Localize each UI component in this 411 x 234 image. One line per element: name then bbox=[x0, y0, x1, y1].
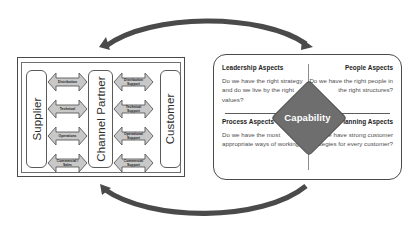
party-channel-partner: Channel Partner bbox=[88, 70, 113, 168]
flow-arrow-commercial-support: Commercial Support bbox=[113, 151, 154, 175]
supplier-to-partner-flows: Distribution Technical Operations Commer… bbox=[47, 68, 88, 170]
flow-arrow-commercial-sales-label: Commercial / Sales bbox=[52, 159, 83, 167]
flow-arrow-distribution-label: Distribution bbox=[52, 80, 83, 84]
top-arc bbox=[99, 21, 313, 50]
party-channel-partner-label: Channel Partner bbox=[95, 76, 107, 161]
flow-arrow-technical-support-label: Technical Support bbox=[118, 105, 149, 113]
bottom-arc bbox=[100, 184, 306, 213]
flow-arrow-operational-support-label: Operational Support bbox=[118, 132, 149, 140]
party-customer: Customer bbox=[160, 70, 181, 168]
flow-arrow-technical-label: Technical bbox=[52, 107, 83, 111]
flow-arrow-distribution-support: Distribution Support bbox=[113, 70, 154, 94]
flow-arrow-distribution-support-label: Distribution Support bbox=[118, 78, 149, 86]
flow-arrow-operations-label: Operations bbox=[52, 134, 83, 138]
horizontal-divider-right bbox=[338, 113, 390, 114]
flow-arrow-technical: Technical bbox=[47, 97, 88, 121]
party-supplier: Supplier bbox=[26, 70, 47, 168]
capability-panel: Leadership Aspects Do we have the right … bbox=[213, 54, 402, 180]
flow-arrow-distribution: Distribution bbox=[47, 70, 88, 94]
party-supplier-label: Supplier bbox=[31, 98, 43, 141]
flow-arrow-operations: Operations bbox=[47, 124, 88, 148]
partner-to-customer-flows: Distribution Support Technical Support O… bbox=[113, 68, 154, 170]
flow-arrow-commercial-sales: Commercial / Sales bbox=[47, 151, 88, 175]
channel-model-box: Supplier Distribution Technical Operatio… bbox=[17, 57, 185, 177]
flow-arrow-technical-support: Technical Support bbox=[113, 97, 154, 121]
channel-model-inner-border: Supplier Distribution Technical Operatio… bbox=[21, 62, 181, 173]
flow-arrow-commercial-support-label: Commercial Support bbox=[118, 159, 149, 167]
diagram-canvas: Supplier Distribution Technical Operatio… bbox=[0, 0, 411, 234]
quadrant-people-heading: People Aspects bbox=[307, 64, 393, 71]
horizontal-divider-left bbox=[225, 113, 277, 114]
quadrant-leadership-heading: Leadership Aspects bbox=[222, 64, 308, 71]
party-customer-label: Customer bbox=[165, 94, 177, 145]
flow-arrow-operational-support: Operational Support bbox=[113, 124, 154, 148]
